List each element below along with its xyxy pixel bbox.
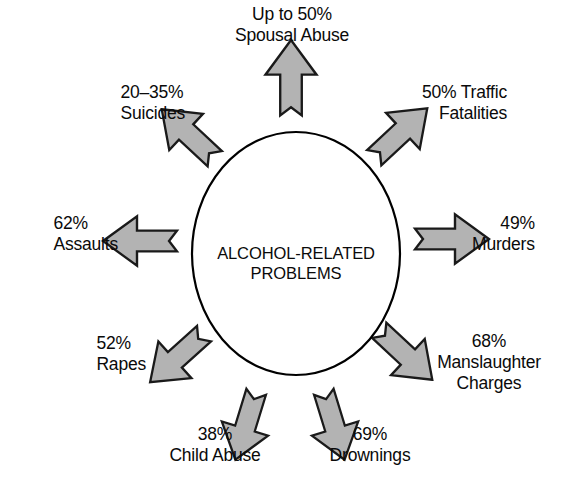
center-label-line-2: PROBLEMS (217, 263, 375, 283)
center-label-line-1: ALCOHOL-RELATED (217, 243, 375, 263)
label-rapes-line-1: 52% (96, 333, 146, 354)
label-spousal-abuse-line-1: Up to 50% (235, 4, 349, 25)
label-drownings: 69% Drownings (330, 424, 411, 466)
label-manslaughter-charges: 68% Manslaughter Charges (437, 331, 541, 394)
label-traffic-fatalities-line-2: Fatalities (422, 103, 507, 124)
label-spousal-abuse-line-2: Spousal Abuse (235, 25, 349, 46)
label-child-abuse-line-1: 38% (169, 424, 260, 445)
label-murders: 49% Murders (472, 213, 535, 255)
center-label: ALCOHOL-RELATED PROBLEMS (217, 243, 375, 283)
label-rapes: 52% Rapes (96, 333, 146, 375)
label-suicides: 20–35% Suicides (120, 82, 185, 124)
arrow-spousal-abuse (266, 40, 317, 115)
label-drownings-line-2: Drownings (330, 445, 411, 466)
label-spousal-abuse: Up to 50% Spousal Abuse (235, 4, 349, 46)
label-assaults-line-1: 62% (53, 213, 118, 234)
label-murders-line-1: 49% (472, 213, 535, 234)
label-murders-line-2: Murders (472, 234, 535, 255)
arrow-rapes (134, 315, 221, 400)
label-suicides-line-1: 20–35% (120, 82, 185, 103)
alcohol-related-problems-diagram: ALCOHOL-RELATED PROBLEMS Up to 50% Spous… (0, 0, 573, 488)
label-manslaughter-charges-line-3: Charges (437, 373, 541, 394)
label-assaults: 62% Assaults (53, 213, 118, 255)
label-rapes-line-2: Rapes (96, 354, 146, 375)
label-manslaughter-charges-line-2: Manslaughter (437, 352, 541, 373)
label-child-abuse: 38% Child Abuse (169, 424, 260, 466)
label-traffic-fatalities-line-1: 50% Traffic (422, 82, 507, 103)
label-manslaughter-charges-line-1: 68% (437, 331, 541, 352)
label-suicides-line-2: Suicides (120, 103, 185, 124)
label-assaults-line-2: Assaults (53, 234, 118, 255)
label-child-abuse-line-2: Child Abuse (169, 445, 260, 466)
label-traffic-fatalities: 50% Traffic Fatalities (422, 82, 507, 124)
label-drownings-line-1: 69% (330, 424, 411, 445)
